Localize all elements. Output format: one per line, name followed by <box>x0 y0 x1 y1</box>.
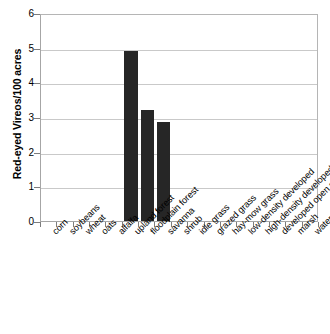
x-axis-label: upland forest <box>133 230 140 237</box>
x-axis-label: corn <box>51 230 58 237</box>
y-tick-label: 0 <box>10 217 34 227</box>
y-tick-label: 2 <box>10 148 34 158</box>
x-axis-label: shrub <box>182 230 189 237</box>
y-tick-mark <box>34 187 40 188</box>
x-axis-label: low-density developed <box>247 230 254 237</box>
x-axis-label: soybeans <box>68 230 75 237</box>
y-tick-mark <box>34 153 40 154</box>
bar-floodplain-forest[interactable] <box>141 110 154 221</box>
x-axis-label: savanna <box>166 230 173 237</box>
y-tick-label: 4 <box>10 78 34 88</box>
y-tick-label: 3 <box>10 113 34 123</box>
bar-upland-forest[interactable] <box>124 51 137 221</box>
y-tick-label: 5 <box>10 44 34 54</box>
x-axis-label: high-density developed <box>264 230 271 237</box>
y-tick-mark <box>34 49 40 50</box>
x-axis-label: wheat <box>84 230 91 237</box>
x-axis-label: water <box>313 230 320 237</box>
x-axis-label: oats <box>100 230 107 237</box>
x-axis-label: grazed grass <box>215 230 222 237</box>
x-axis-label: floodplain forest <box>149 230 156 237</box>
x-tick-mark <box>40 222 41 227</box>
x-axis-label: alfalfa <box>117 230 124 237</box>
x-axis-label: hay-mow grass <box>231 230 238 237</box>
chart-container: Red-eyed Vireos/100 acres 6543210 cornso… <box>0 0 330 334</box>
x-axis-label: developed open space <box>280 230 287 237</box>
x-axis-label: marsh <box>296 230 303 237</box>
y-tick-mark <box>34 83 40 84</box>
y-tick-mark <box>34 14 40 15</box>
y-tick-label: 1 <box>10 182 34 192</box>
y-tick-label: 6 <box>10 9 34 19</box>
x-axis-label: idle grass <box>198 230 205 237</box>
y-tick-mark <box>34 118 40 119</box>
